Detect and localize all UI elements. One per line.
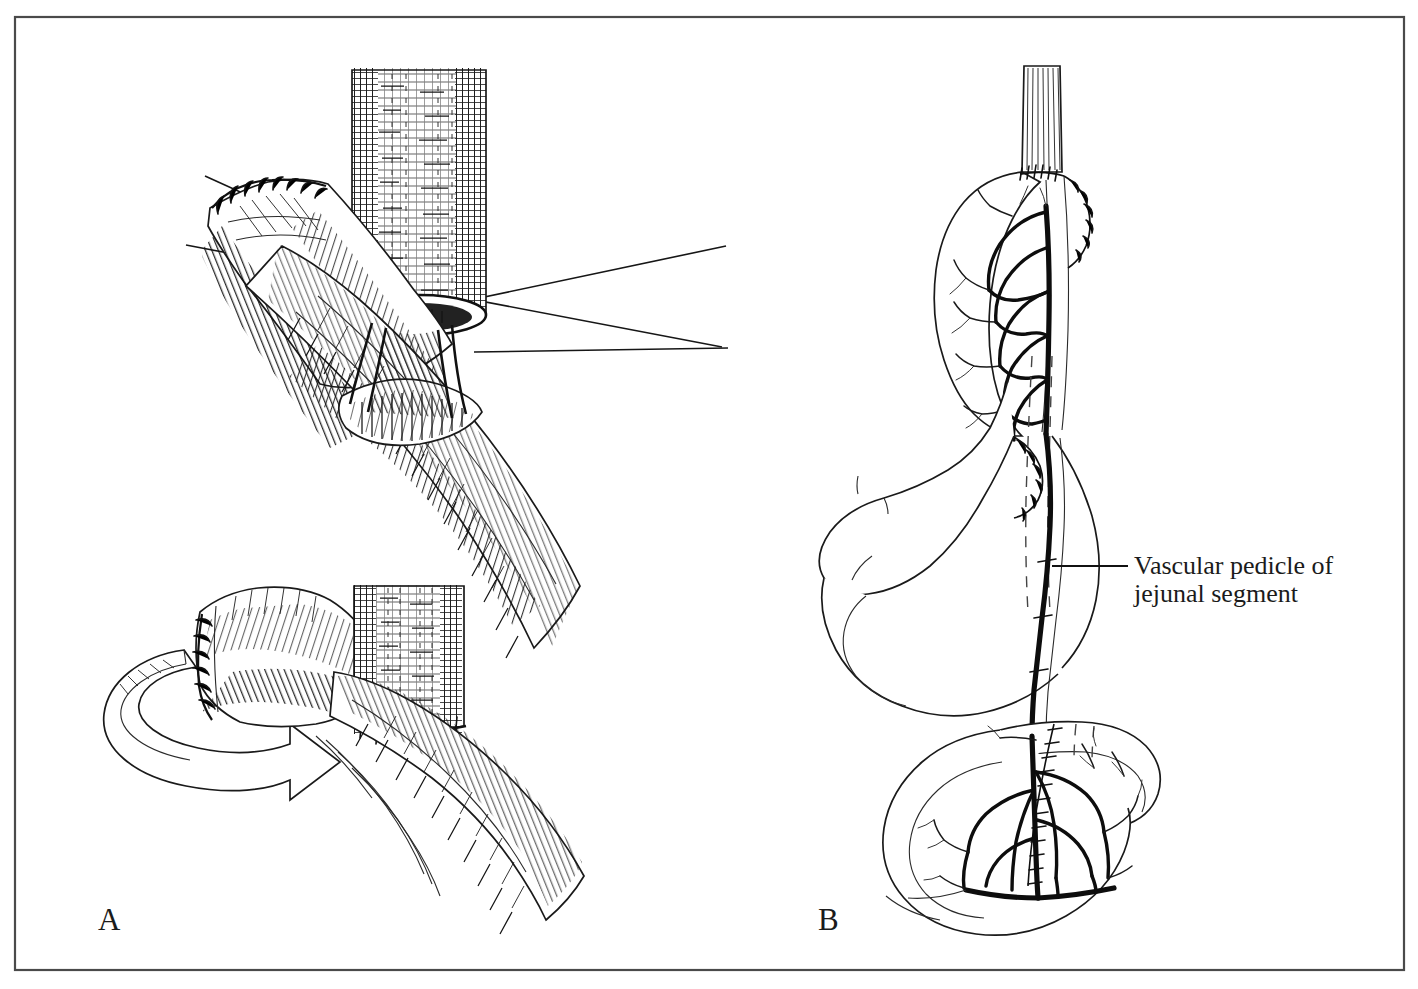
surgical-illustration-canvas: A xyxy=(0,0,1418,989)
figure-root: A xyxy=(0,0,1418,989)
callout-line-1: Vascular pedicle of xyxy=(1134,551,1334,580)
esophagus-b xyxy=(1022,66,1062,172)
callout-line-2: jejunal segment xyxy=(1133,579,1299,608)
page-background xyxy=(0,0,1418,989)
panel-label-a: A xyxy=(98,902,121,937)
panel-label-b: B xyxy=(818,902,839,937)
